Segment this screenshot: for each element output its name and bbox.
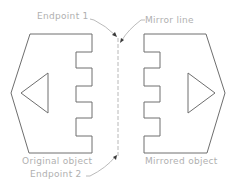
endpoint1-leader [90,19,115,35]
endpoint2-label: Endpoint 2 [30,170,82,179]
mirrored-object-outline [144,34,225,153]
endpoint2-arrowhead [113,155,117,160]
mirrored-object-label: Mirrored object [145,157,218,166]
endpoint1-label: Endpoint 1 [37,12,89,21]
mirror-line-leader [122,20,145,40]
original-triangle-left [21,73,48,113]
original-object-label: Original object [22,157,92,166]
mirror-line-label: Mirror line [145,16,194,25]
mirror-line-arrowhead [120,38,124,43]
mirror-diagram: Endpoint 1 Mirror line Original object E… [0,0,236,186]
original-object-outline [11,34,92,153]
mirrored-triangle-right [188,73,215,113]
